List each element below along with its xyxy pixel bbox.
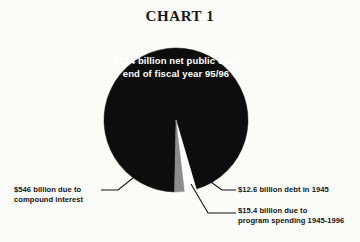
callout-debt-1945: $12.6 billion debt in 1945 <box>238 185 356 195</box>
callout-program-spending: $15.4 billion due to program spending 19… <box>238 206 358 225</box>
pie-center-label: $574 billion net public debt end of fisc… <box>104 55 248 80</box>
callout-compound-interest: $546 billion due to compound interest <box>14 185 100 204</box>
chart-figure: CHART 1 $574 billion net public debt end… <box>0 0 360 242</box>
leader-line-compound-interest <box>101 178 133 190</box>
